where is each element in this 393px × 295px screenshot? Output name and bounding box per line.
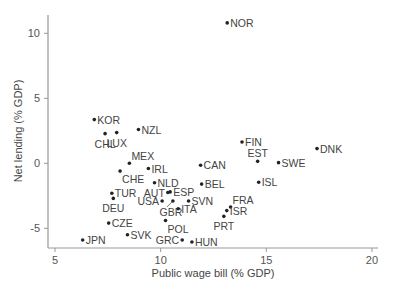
- data-point-can: CAN: [199, 159, 226, 171]
- point-label: ITA: [181, 203, 197, 215]
- data-point-pol: POL: [164, 219, 189, 235]
- point-label: TUR: [115, 187, 137, 199]
- point-label: NOR: [230, 17, 254, 29]
- point-label: CAN: [204, 159, 226, 171]
- point-marker: [199, 163, 203, 167]
- data-point-hun: HUN: [190, 236, 218, 248]
- data-point-isl: ISL: [257, 176, 278, 188]
- data-point-svk: SVK: [126, 229, 152, 241]
- y-tick-label: -5: [30, 222, 40, 234]
- x-tick-label: 15: [260, 254, 272, 266]
- point-label: ISL: [262, 176, 278, 188]
- y-tick-label: 10: [28, 27, 40, 39]
- point-label: GRC: [156, 234, 180, 246]
- x-tick-label: 10: [155, 254, 167, 266]
- data-point-nzl: NZL: [137, 124, 162, 136]
- point-marker: [153, 181, 157, 185]
- point-label: DEU: [102, 202, 124, 214]
- point-marker: [112, 197, 116, 201]
- point-label: LUX: [106, 137, 126, 149]
- point-label: KOR: [97, 114, 120, 126]
- y-tick-label: 0: [34, 157, 40, 169]
- point-label: NZL: [141, 124, 161, 136]
- point-marker: [81, 238, 85, 242]
- y-axis-title: Net lending (% GDP): [12, 80, 24, 183]
- data-point-deu: DEU: [102, 197, 124, 215]
- point-marker: [222, 215, 226, 219]
- point-marker: [103, 132, 107, 136]
- point-label: EST: [247, 147, 268, 159]
- point-label: SVK: [130, 229, 151, 241]
- point-marker: [200, 182, 204, 186]
- point-marker: [315, 147, 319, 151]
- data-point-grc: GRC: [156, 234, 184, 246]
- point-label: HUN: [195, 236, 218, 248]
- x-tick-label: 20: [366, 254, 378, 266]
- data-point-esp: ESP: [168, 186, 194, 198]
- point-label: FIN: [245, 136, 262, 148]
- point-label: PRT: [213, 220, 234, 232]
- x-tick-label: 5: [52, 254, 58, 266]
- point-marker: [166, 191, 170, 195]
- point-marker: [176, 207, 180, 211]
- point-label: MEX: [131, 150, 154, 162]
- y-tick-label: 5: [34, 92, 40, 104]
- point-marker: [225, 21, 229, 25]
- data-point-prt: PRT: [213, 215, 234, 233]
- data-point-jpn: JPN: [81, 234, 106, 246]
- data-point-kor: KOR: [93, 114, 121, 126]
- data-point-irl: IRL: [147, 163, 168, 175]
- point-marker: [240, 140, 244, 144]
- data-points: NORKORNZLCHLLUXFINDNKESTSWEMEXCANIRLCHEI…: [81, 17, 342, 248]
- point-marker: [257, 180, 261, 184]
- point-marker: [160, 199, 164, 203]
- point-label: BEL: [205, 178, 225, 190]
- data-point-nor: NOR: [225, 17, 254, 29]
- point-label: USA: [138, 195, 160, 207]
- data-point-che: CHE: [118, 169, 144, 185]
- point-label: SWE: [282, 157, 306, 169]
- point-marker: [107, 221, 111, 225]
- point-marker: [147, 167, 151, 171]
- data-point-fin: FIN: [240, 136, 262, 148]
- x-axis-title: Public wage bill (% GDP): [152, 267, 275, 279]
- axes: -505105101520: [28, 15, 378, 266]
- point-label: IRL: [151, 163, 168, 175]
- point-label: CHE: [122, 173, 144, 185]
- scatter-chart: -505105101520 NORKORNZLCHLLUXFINDNKESTSW…: [0, 0, 393, 295]
- point-marker: [110, 191, 114, 195]
- data-point-dnk: DNK: [315, 143, 342, 155]
- data-point-isr: ISR: [225, 205, 248, 217]
- data-point-est: EST: [247, 147, 268, 163]
- point-label: POL: [168, 223, 189, 235]
- point-label: ISR: [230, 205, 248, 217]
- data-point-lux: LUX: [106, 131, 126, 149]
- point-marker: [277, 161, 281, 165]
- point-label: CZE: [112, 217, 133, 229]
- data-point-cze: CZE: [107, 217, 133, 229]
- point-marker: [115, 131, 119, 135]
- point-marker: [93, 118, 97, 122]
- point-marker: [225, 209, 229, 213]
- data-point-bel: BEL: [200, 178, 225, 190]
- point-marker: [256, 160, 260, 164]
- point-label: JPN: [86, 234, 106, 246]
- point-marker: [190, 240, 194, 244]
- data-point-mex: MEX: [128, 150, 155, 165]
- point-marker: [180, 238, 184, 242]
- point-marker: [137, 128, 141, 132]
- point-label: DNK: [320, 143, 342, 155]
- data-point-swe: SWE: [277, 157, 306, 169]
- point-marker: [126, 233, 130, 237]
